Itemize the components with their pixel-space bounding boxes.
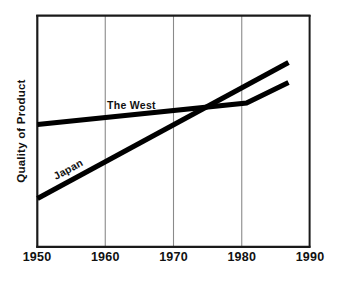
- chart-container: The West Japan Quality of Product 1950 1…: [0, 0, 337, 281]
- y-axis-title: Quality of Product: [15, 79, 27, 182]
- x-axis-tick-labels: 1950 1960 1970 1980 1990: [23, 250, 325, 264]
- x-tick-label-1990: 1990: [296, 250, 325, 264]
- x-tick-label-1950: 1950: [23, 250, 52, 264]
- quality-of-product-line-chart: The West Japan Quality of Product 1950 1…: [0, 0, 337, 281]
- x-tick-label-1960: 1960: [91, 250, 120, 264]
- x-tick-label-1970: 1970: [159, 250, 188, 264]
- x-tick-label-1980: 1980: [227, 250, 256, 264]
- series-label-the-west: The West: [107, 99, 156, 111]
